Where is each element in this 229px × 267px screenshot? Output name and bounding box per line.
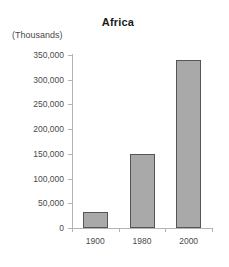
y-axis-tick-label: 250,000: [8, 99, 64, 109]
bar: [83, 212, 108, 228]
y-axis-tick-label: 350,000: [8, 50, 64, 60]
x-axis-tick: [212, 228, 213, 232]
y-axis-tick-label: 50,000: [8, 198, 64, 208]
chart-title: Africa: [68, 16, 168, 28]
y-axis-tick-label: 300,000: [8, 75, 64, 85]
bar-chart: Africa (Thousands) 050,000100,000150,000…: [0, 0, 229, 267]
bar: [130, 154, 155, 228]
x-axis-tick: [119, 228, 120, 232]
plot-area: [72, 55, 212, 228]
x-axis-tick: [72, 228, 73, 232]
x-axis-tick-label: 2000: [169, 236, 209, 246]
y-axis-tick-label: 0: [8, 223, 64, 233]
bar: [176, 60, 201, 228]
y-axis-tick-label: 100,000: [8, 174, 64, 184]
x-axis-tick-label: 1980: [122, 236, 162, 246]
x-axis-tick-label: 1900: [75, 236, 115, 246]
y-axis-tick-label: 150,000: [8, 149, 64, 159]
x-axis-line: [72, 228, 213, 229]
y-axis-tick-label: 200,000: [8, 124, 64, 134]
y-axis-unit-label: (Thousands): [12, 30, 63, 40]
x-axis-tick: [165, 228, 166, 232]
